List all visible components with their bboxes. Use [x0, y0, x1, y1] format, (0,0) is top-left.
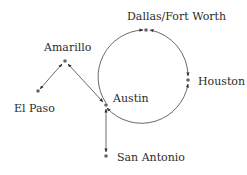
edge-amarillo-elpaso: [40, 64, 62, 89]
label-elpaso: El Paso: [14, 102, 55, 115]
texas-route-diagram: Dallas/Fort Worth Amarillo Houston Austi…: [0, 0, 247, 175]
label-dallas: Dallas/Fort Worth: [127, 10, 226, 23]
node-dallas: [144, 28, 148, 32]
node-sanantonio: [104, 154, 108, 158]
edge-dallas-houston: [150, 30, 188, 76]
route-loop: [98, 30, 188, 123]
node-elpaso: [36, 89, 40, 93]
label-sanantonio: San Antonio: [117, 151, 185, 164]
node-austin: [104, 103, 108, 107]
node-amarillo: [63, 59, 67, 63]
label-austin: Austin: [112, 92, 149, 105]
edge-amarillo-austin: [68, 64, 103, 102]
label-amarillo: Amarillo: [43, 41, 92, 54]
label-houston: Houston: [198, 75, 245, 88]
node-houston: [186, 78, 190, 82]
